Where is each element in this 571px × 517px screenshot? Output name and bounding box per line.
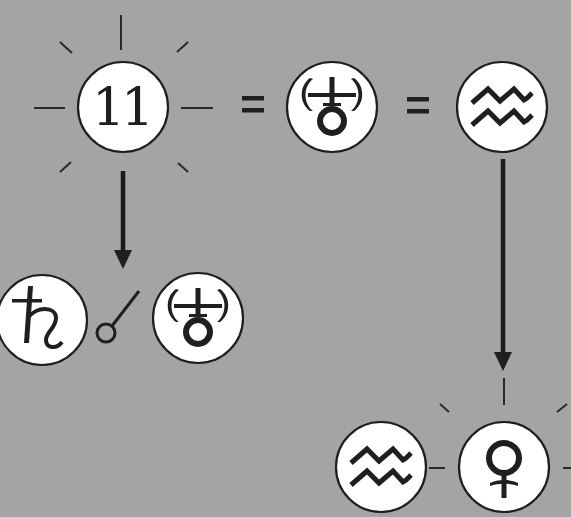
uranus-node [287,62,377,152]
equals-sign [407,97,429,114]
arrow-down-left [114,171,132,269]
aquarius-node [457,62,547,152]
astrology-diagram: 11 [0,0,571,517]
uranus-node-2 [153,273,243,363]
house-11-node: 11 [78,62,168,152]
opposition-icon [97,291,139,342]
equals-sign [242,96,264,113]
venus-node [459,422,549,512]
house-number-label: 11 [92,77,150,137]
diagram-svg: 11 [0,0,571,517]
aquarius-node-2 [336,422,426,512]
saturn-node [0,275,87,365]
arrow-down-right [494,159,512,371]
